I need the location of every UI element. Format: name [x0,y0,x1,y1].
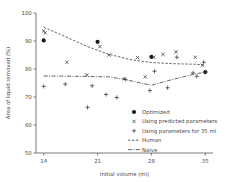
line-human [44,27,206,65]
legend-label-using-parameters-for-35-ml: Using parameters for 35 ml [142,128,216,135]
point-optimized [42,38,46,42]
trend-lines [44,27,206,85]
legend-marker-optimized [132,110,136,114]
legend-label-optimized: Optimized [142,109,170,116]
y-tick-label: 70 [25,94,32,100]
x-tick-label: 28 [148,158,155,164]
x-tick-label: 14 [40,158,47,164]
y-tick-label: 50 [25,150,32,156]
scatter-plot: 506070809010014212835Initial volume (ml)… [0,0,231,182]
data-points [42,29,208,109]
legend-label-naive: Naive [142,147,158,153]
x-tick-label: 35 [202,158,209,164]
chart-legend: OptimizedUsing predicted parametersUsing… [128,109,218,153]
y-axis-title: Area of liquid removed (%) [5,47,12,119]
y-tick-label: 100 [22,10,33,16]
x-axis-title: Initial volume (ml) [100,171,149,177]
point-optimized [95,40,99,44]
y-tick-label: 60 [25,122,32,128]
chart-figure: 506070809010014212835Initial volume (ml)… [0,0,231,182]
y-tick-label: 80 [25,66,32,72]
y-tick-label: 90 [25,38,32,44]
legend-label-using-predicted-parameters: Using predicted parameters [142,118,218,125]
x-tick-label: 21 [94,158,101,164]
legend-label-human: Human [142,137,161,143]
axis-labels: 506070809010014212835Initial volume (ml)… [5,10,209,177]
